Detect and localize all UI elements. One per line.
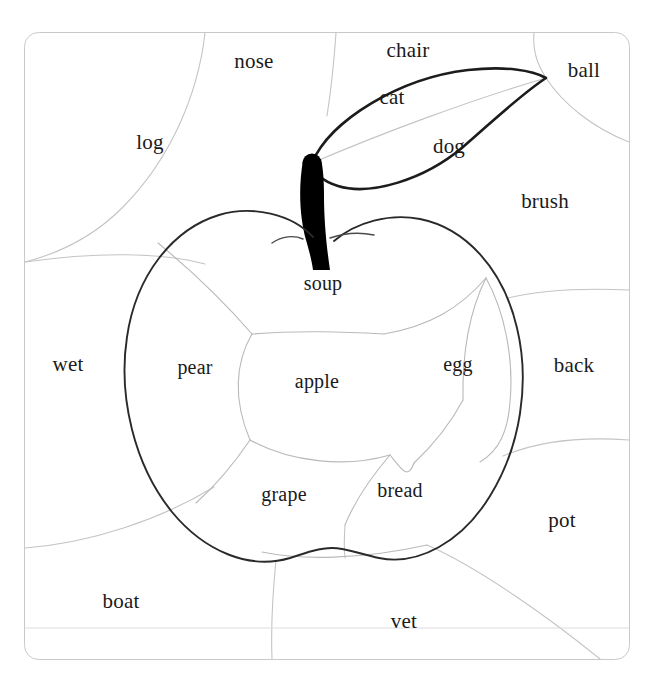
word-label-inside-apple: apple (295, 371, 339, 391)
figure-frame (25, 33, 630, 660)
word-label-inside-bread: bread (377, 480, 422, 500)
word-label-outside-back: back (554, 355, 594, 376)
word-label-inside-soup: soup (304, 273, 343, 293)
word-label-outside-chair: chair (387, 40, 430, 61)
figure-canvas: · · (0, 0, 654, 685)
word-label-outside-wet: wet (53, 354, 84, 375)
word-label-outside-dog: dog (433, 136, 465, 157)
word-label-outside-brush: brush (521, 191, 569, 212)
word-label-outside-pot: pot (548, 510, 575, 531)
word-label-outside-nose: nose (234, 51, 273, 72)
word-label-outside-vet: vet (391, 611, 417, 632)
word-label-inside-egg: egg (443, 354, 472, 374)
apple-word-map-svg (0, 0, 654, 685)
word-label-outside-log: log (136, 132, 163, 153)
word-label-outside-ball: ball (568, 60, 600, 81)
word-label-inside-pear: pear (177, 357, 212, 377)
word-label-outside-cat: cat (379, 87, 404, 108)
word-label-outside-boat: boat (103, 591, 140, 612)
word-label-inside-grape: grape (261, 484, 306, 504)
apple-stem-cap (303, 154, 322, 173)
